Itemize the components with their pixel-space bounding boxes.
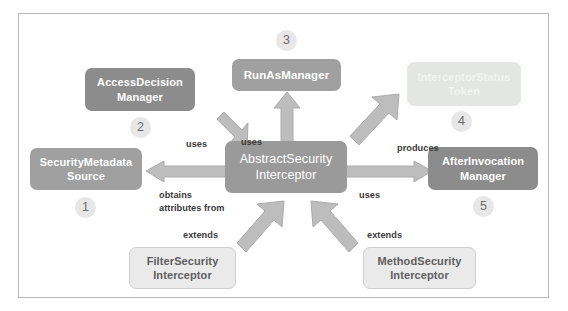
diagram-frame: SecurityMetadata Source 1 AccessDecision… bbox=[18, 13, 549, 298]
node-label-after-invocation-manager: AfterInvocation Manager bbox=[442, 154, 524, 182]
badge-after-invocation-manager: 5 bbox=[473, 196, 494, 217]
badge-interceptor-status-token: 4 bbox=[451, 111, 472, 132]
edge-label-obtains-attributes-from: obtains attributes from bbox=[159, 177, 225, 214]
edge-label-uses-run-as-manager: uses bbox=[241, 124, 262, 149]
diagram-canvas: SecurityMetadata Source 1 AccessDecision… bbox=[0, 0, 568, 311]
arrow-extends-filter-security-interceptor bbox=[232, 199, 288, 261]
edge-label-extends-method-security-interceptor: extends bbox=[367, 217, 402, 242]
edge-label-uses-after-invocation-manager: uses bbox=[359, 177, 380, 202]
edge-label-produces-interceptor-status-token: produces bbox=[397, 130, 439, 155]
node-label-security-metadata-source: SecurityMetadata Source bbox=[40, 155, 133, 183]
badge-security-metadata-source: 1 bbox=[75, 197, 96, 218]
node-interceptor-status-token[interactable]: InterceptorStatus Token bbox=[407, 62, 521, 106]
arrow-uses-run-as-manager bbox=[272, 90, 302, 148]
node-run-as-manager[interactable]: RunAsManager bbox=[232, 59, 341, 91]
node-label-filter-security-interceptor: FilterSecurity Interceptor bbox=[147, 254, 219, 282]
badge-access-decision-manager: 2 bbox=[130, 117, 151, 138]
node-method-security-interceptor[interactable]: MethodSecurity Interceptor bbox=[363, 247, 476, 289]
node-label-abstract-security-interceptor: AbstractSecurity Interceptor bbox=[240, 151, 333, 183]
node-label-run-as-manager: RunAsManager bbox=[244, 68, 330, 83]
arrow-uses-after-invocation-manager bbox=[339, 159, 434, 183]
edge-label-extends-filter-security-interceptor: extends bbox=[183, 217, 218, 242]
node-filter-security-interceptor[interactable]: FilterSecurity Interceptor bbox=[129, 247, 236, 289]
arrow-extends-method-security-interceptor bbox=[307, 199, 363, 261]
edge-label-uses-access-decision-manager: uses bbox=[186, 126, 207, 151]
node-label-interceptor-status-token: InterceptorStatus Token bbox=[418, 70, 511, 98]
node-security-metadata-source[interactable]: SecurityMetadata Source bbox=[30, 148, 142, 190]
node-label-access-decision-manager: AccessDecision Manager bbox=[97, 75, 183, 103]
node-access-decision-manager[interactable]: AccessDecision Manager bbox=[85, 68, 195, 111]
badge-run-as-manager: 3 bbox=[276, 30, 297, 51]
node-after-invocation-manager[interactable]: AfterInvocation Manager bbox=[428, 147, 538, 190]
node-label-method-security-interceptor: MethodSecurity Interceptor bbox=[378, 254, 462, 282]
